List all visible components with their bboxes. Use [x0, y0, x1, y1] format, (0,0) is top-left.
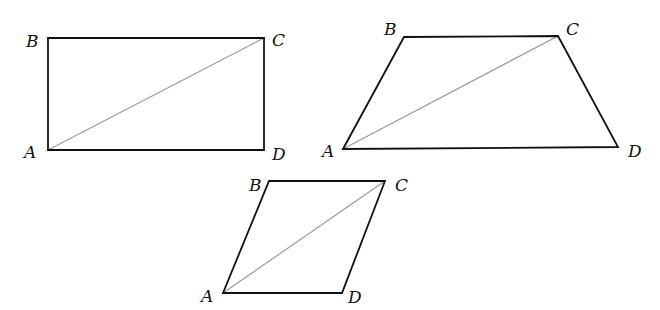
- trapezoid-vertex-label-d: D: [627, 141, 642, 161]
- rectangle-vertex-label-c: C: [272, 30, 285, 50]
- rectangle-vertex-label-d: D: [271, 144, 286, 164]
- rhombus-vertex-label-c: C: [395, 175, 408, 195]
- trapezoid-figure: ABCD: [320, 19, 642, 161]
- quadrilaterals-diagram: ABCDABCDABCD: [0, 0, 660, 310]
- rhombus-diagonal-ac: [223, 181, 385, 293]
- trapezoid-vertex-label-a: A: [320, 141, 334, 161]
- rectangle-diagonal-ac: [48, 38, 264, 150]
- rectangle-vertex-label-a: A: [22, 142, 36, 162]
- rectangle-vertex-label-b: B: [25, 31, 39, 51]
- rhombus-figure: ABCD: [199, 175, 408, 307]
- trapezoid-outline: [343, 36, 618, 149]
- trapezoid-vertex-label-b: B: [383, 19, 397, 39]
- trapezoid-diagonal-ac: [343, 36, 558, 149]
- rhombus-vertex-label-a: A: [199, 286, 213, 306]
- rhombus-vertex-label-b: B: [248, 175, 262, 195]
- rectangle-figure: ABCD: [22, 30, 286, 164]
- rhombus-vertex-label-d: D: [347, 287, 362, 307]
- trapezoid-vertex-label-c: C: [566, 19, 579, 39]
